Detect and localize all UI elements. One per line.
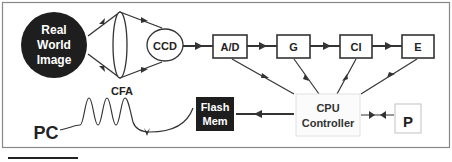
real-world-image-node: Real World Image	[21, 12, 87, 78]
cable-wave	[60, 98, 193, 132]
ad-box: A/D	[213, 35, 247, 58]
lens-icon	[113, 12, 127, 78]
ci-box: CI	[340, 35, 372, 58]
arrow-ad-to-g	[259, 42, 267, 50]
ci-label: CI	[351, 41, 362, 53]
pc-label: PC	[33, 123, 58, 143]
p-label: P	[403, 113, 413, 130]
real-world-image-label-1: Real	[41, 23, 66, 37]
ray-arrow-1	[99, 18, 105, 24]
ccd-node: CCD	[147, 29, 183, 61]
arrow-p-to-cpu-2	[380, 111, 386, 119]
ad-label: A/D	[221, 41, 240, 53]
flash-label: Flash	[201, 101, 230, 113]
e-label: E	[414, 41, 421, 53]
arrow-ci-to-e	[385, 42, 393, 50]
arrow-ci-to-cpu	[342, 74, 348, 81]
ccd-label: CCD	[153, 40, 177, 52]
e-box: E	[402, 35, 434, 58]
cpu-label: CPU	[316, 102, 339, 114]
arrow-g-to-ci	[323, 42, 331, 50]
g-box: G	[277, 35, 310, 58]
mem-label: Mem	[202, 115, 227, 127]
p-node: P	[395, 104, 421, 133]
cpu-controller-node: CPU Controller	[296, 94, 360, 136]
arrow-ad-to-cpu	[261, 73, 269, 78]
real-world-image-label-3: Image	[37, 53, 72, 67]
ray-arrow-2	[99, 66, 105, 72]
arrow-cpu-to-flash	[254, 110, 262, 118]
arrow-p-to-cpu-1	[369, 111, 375, 119]
g-label: G	[289, 41, 298, 53]
flash-mem-node: Flash Mem	[196, 97, 234, 131]
cfa-label: CFA	[111, 85, 133, 97]
real-world-image-label-2: World	[37, 38, 71, 52]
controller-label: Controller	[302, 117, 355, 129]
camera-pipeline-diagram: Real World Image CCD A/D G CI	[0, 0, 452, 162]
arrow-ccd-to-ad	[195, 42, 203, 50]
